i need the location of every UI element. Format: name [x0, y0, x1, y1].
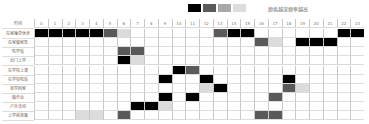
- heat-cell: [282, 102, 296, 111]
- heat-cell: [282, 56, 296, 65]
- heat-cell: [199, 66, 213, 75]
- heat-cell: [103, 111, 117, 120]
- heat-cell: [350, 66, 364, 75]
- header-label: 时间: [2, 19, 34, 29]
- heat-cell: [62, 47, 76, 56]
- heat-cell: [130, 75, 144, 84]
- heat-cell: [144, 111, 158, 120]
- heat-cell: [34, 102, 48, 111]
- heat-cell: [282, 111, 296, 120]
- heat-cell: [75, 93, 89, 102]
- heat-cell: [309, 56, 323, 65]
- heat-cell: [309, 111, 323, 120]
- heat-cell: [89, 111, 103, 120]
- heat-cell: [268, 102, 282, 111]
- heat-cell: [185, 56, 199, 65]
- heat-cell: [240, 93, 254, 102]
- heat-cell: [34, 66, 48, 75]
- heat-cell: [185, 66, 199, 75]
- heat-cell: [130, 84, 144, 93]
- hour-header: 10: [172, 19, 186, 28]
- heat-cell: [282, 66, 296, 75]
- heat-cell: [254, 102, 268, 111]
- heat-cell: [295, 75, 309, 84]
- heat-cell: [268, 47, 282, 56]
- heat-cell: [103, 47, 117, 56]
- heat-cell: [144, 66, 158, 75]
- hour-header: 15: [240, 19, 254, 28]
- heat-cell: [62, 66, 76, 75]
- heat-cell: [309, 38, 323, 47]
- heat-cell: [213, 47, 227, 56]
- heat-cell: [254, 38, 268, 47]
- heat-cell: [34, 29, 48, 38]
- heat-cell: [117, 29, 131, 38]
- heat-cell: [295, 56, 309, 65]
- heat-cell: [350, 38, 364, 47]
- heat-cell: [323, 38, 337, 47]
- heat-cell: [295, 29, 309, 38]
- heat-cell: [172, 29, 186, 38]
- heat-cell: [158, 102, 172, 111]
- hour-header: 6: [117, 19, 131, 28]
- heat-cell: [62, 102, 76, 111]
- heat-cell: [323, 93, 337, 102]
- heat-cell: [213, 66, 227, 75]
- heat-cell: [282, 84, 296, 93]
- heat-cell: [144, 102, 158, 111]
- heat-cell: [199, 84, 213, 93]
- hour-header: 3: [75, 19, 89, 28]
- heat-cell: [268, 38, 282, 47]
- heat-cell: [268, 111, 282, 120]
- heat-cell: [103, 102, 117, 111]
- heat-cell: [75, 47, 89, 56]
- heat-cell: [103, 29, 117, 38]
- heat-cell: [172, 75, 186, 84]
- legend-swatch-dark: [203, 4, 216, 12]
- heat-cell: [48, 29, 62, 38]
- hour-header: 19: [295, 19, 309, 28]
- hour-header: 2: [62, 19, 76, 28]
- hour-header: 16: [254, 19, 268, 28]
- heat-cell: [282, 75, 296, 84]
- heat-cell: [337, 111, 351, 120]
- heat-cell: [185, 93, 199, 102]
- hour-header: 9: [158, 19, 172, 28]
- legend: 颜色越深频率越高: [188, 3, 308, 13]
- heat-cell: [337, 102, 351, 111]
- heat-cell: [295, 93, 309, 102]
- heat-cell: [172, 102, 186, 111]
- heat-cell: [62, 56, 76, 65]
- heat-cell: [309, 75, 323, 84]
- heat-cell: [199, 93, 213, 102]
- heat-cell: [117, 38, 131, 47]
- heat-cell: [117, 66, 131, 75]
- hour-header: 7: [130, 19, 144, 28]
- heat-cell: [240, 56, 254, 65]
- heat-cell: [89, 47, 103, 56]
- heat-cell: [62, 84, 76, 93]
- heat-cell: [185, 102, 199, 111]
- heat-cell: [158, 38, 172, 47]
- heat-cell: [158, 75, 172, 84]
- heat-cell: [144, 47, 158, 56]
- heat-cell: [103, 75, 117, 84]
- heat-cell: [350, 47, 364, 56]
- heat-cell: [350, 75, 364, 84]
- legend-swatch-light: [233, 4, 246, 12]
- heat-cell: [295, 102, 309, 111]
- heat-cell: [144, 75, 158, 84]
- heat-cell: [89, 29, 103, 38]
- heat-cell: [158, 29, 172, 38]
- hour-header: 17: [268, 19, 282, 28]
- heat-cell: [309, 102, 323, 111]
- heat-cell: [309, 47, 323, 56]
- hour-header: 1: [48, 19, 62, 28]
- heat-cell: [323, 56, 337, 65]
- heat-cell: [254, 93, 268, 102]
- heat-cell: [103, 66, 117, 75]
- heat-cell: [254, 47, 268, 56]
- heat-cell: [227, 84, 241, 93]
- heat-cell: [117, 102, 131, 111]
- hour-header: 22: [337, 19, 351, 28]
